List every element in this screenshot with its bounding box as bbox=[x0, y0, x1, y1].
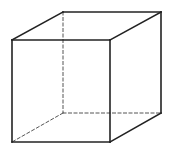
hidden-edge-back-bottom-left-to-front-bottom-left bbox=[12, 113, 63, 142]
visible-edges bbox=[12, 12, 161, 142]
edge-front-top-left-to-back-top-left bbox=[12, 12, 63, 40]
cube-diagram bbox=[0, 0, 172, 148]
edge-back-top-right-to-front-top-right bbox=[110, 12, 161, 40]
edge-back-bottom-right-to-front-bottom-right bbox=[110, 113, 161, 142]
cube-wireframe bbox=[0, 0, 172, 148]
hidden-edges bbox=[12, 12, 161, 142]
